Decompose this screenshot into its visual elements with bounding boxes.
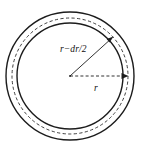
- radius-arrowhead-icon: [122, 73, 129, 79]
- radius-label: r: [94, 84, 98, 94]
- figure-container: r−dr/2 r: [0, 0, 150, 152]
- center-point-marker: [69, 75, 71, 77]
- annulus-diagram-svg: [0, 0, 150, 152]
- mean-radius-label: r−dr/2: [60, 45, 87, 55]
